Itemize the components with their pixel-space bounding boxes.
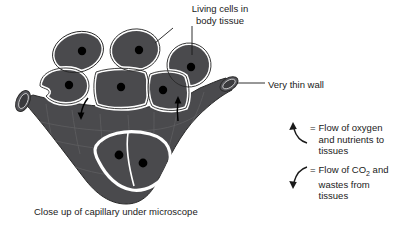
nucleus-cell-4 [65,81,73,89]
tissue-cell-6 [148,71,189,111]
legend-equals-oxygen: = [310,122,316,134]
capillary-nucleus-2 [139,159,148,168]
legend-arrow-glyphs [289,122,307,189]
legend-label-oxygen: Flow of oxygen and nutrients to tissues [319,122,385,157]
legend-item-oxygen: = Flow of oxygen and nutrients to tissue… [310,122,417,157]
legend-label-co2-before: Flow of CO [319,164,367,175]
arrow-down-curved-icon [289,167,307,189]
nucleus-cell-1 [78,47,86,55]
nucleus-cell-6 [159,86,167,94]
tissue-cell-group [40,25,213,111]
legend-item-co2: = Flow of CO2 and wastes from tissues [310,164,417,202]
leader-line-cells-left [155,28,173,43]
nucleus-cell-5 [117,83,125,91]
capillary-nucleus-1 [115,151,124,160]
diagram-caption: Close up of capillary under microscope [34,206,198,218]
very-thin-wall-label: Very thin wall [268,79,324,91]
nucleus-cell-2 [135,46,143,54]
legend-label-co2: Flow of CO2 and wastes from tissues [319,164,389,202]
legend: = Flow of oxygen and nutrients to tissue… [310,122,417,209]
tissue-cell-4 [40,68,89,104]
legend-equals-co2: = [310,164,316,176]
nucleus-cell-3 [187,63,195,71]
living-cells-label: Living cells in body tissue [172,3,268,26]
arrow-up-curved-icon [289,122,307,143]
diagram-page: Living cells in body tissue Very thin wa… [0,0,417,233]
